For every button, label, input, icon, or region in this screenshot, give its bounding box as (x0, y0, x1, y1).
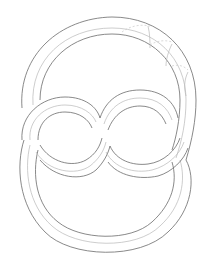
knot-svg (0, 0, 210, 271)
right-lobe (100, 90, 188, 177)
left-lobe (22, 97, 110, 177)
knot-drawing (0, 0, 210, 271)
upper-loop (22, 17, 196, 160)
hatching (122, 25, 188, 96)
